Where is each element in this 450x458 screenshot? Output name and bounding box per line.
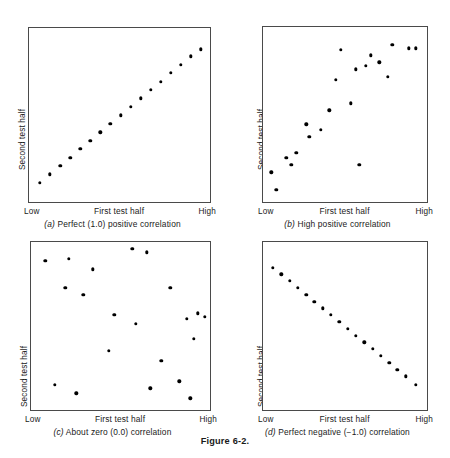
data-point [159, 80, 162, 83]
data-point [192, 337, 195, 340]
data-point [363, 341, 366, 344]
panel-d-x-label: First test half [319, 414, 369, 424]
data-point [64, 286, 67, 289]
data-point [67, 257, 70, 260]
data-point [290, 163, 293, 166]
data-point [131, 247, 134, 250]
panel-a-y-axis-label: Second test half [18, 109, 27, 170]
panel-c: Second test half Low First test half Hig… [0, 235, 225, 458]
data-point [364, 64, 367, 67]
data-point [149, 88, 152, 91]
data-point [288, 279, 291, 282]
data-point [369, 54, 372, 57]
panel-d: Second test half Low First test half Hig… [225, 235, 450, 458]
panel-a-x-label: First test half [94, 206, 144, 216]
data-point [199, 47, 202, 50]
panel-c-x-axis: Low First test half High [25, 414, 217, 424]
panel-a: Second test half Low First test half Hig… [0, 0, 225, 235]
data-point [304, 123, 307, 126]
panel-c-x-low: Low [25, 415, 40, 424]
data-point [346, 327, 349, 330]
data-point [270, 170, 273, 173]
data-point [129, 105, 132, 108]
panel-c-plot-area [30, 241, 211, 411]
data-point [58, 164, 61, 167]
figure-caption: Figure 6-2. [0, 436, 450, 446]
data-point [149, 386, 152, 389]
data-point [203, 315, 206, 318]
data-point [119, 114, 122, 117]
data-point [134, 322, 137, 325]
panel-a-caption: (a) Perfect (1.0) positive correlation [0, 219, 225, 229]
data-point [391, 43, 394, 46]
panel-a-caption-text: Perfect (1.0) positive correlation [55, 219, 181, 229]
data-point [44, 259, 47, 262]
data-point [179, 63, 182, 66]
data-point [329, 313, 332, 316]
data-point [53, 383, 56, 386]
panel-a-x-high: High [199, 207, 216, 216]
panel-b-x-high: High [416, 207, 433, 216]
data-point [414, 47, 417, 50]
data-point [328, 108, 331, 111]
panel-b-letter: (b) [284, 219, 295, 229]
data-point [38, 181, 41, 184]
panel-d-x-low: Low [258, 415, 273, 424]
data-point [185, 317, 188, 320]
data-point [107, 349, 110, 352]
data-point [338, 320, 341, 323]
data-point [48, 173, 51, 176]
data-point [109, 122, 112, 125]
data-point [396, 368, 399, 371]
panel-d-x-axis: Low First test half High [258, 414, 433, 424]
figure-6-2: Second test half Low First test half Hig… [0, 0, 450, 458]
panel-b-x-low: Low [258, 207, 273, 216]
data-point [82, 293, 85, 296]
data-point [404, 375, 407, 378]
data-point [169, 286, 172, 289]
data-point [334, 78, 337, 81]
data-point [321, 307, 324, 310]
data-point [377, 61, 380, 64]
data-point [354, 334, 357, 337]
data-point [294, 151, 297, 154]
panel-b-plot-area [262, 26, 428, 203]
data-point [178, 380, 181, 383]
data-point [386, 75, 389, 78]
data-point [75, 392, 78, 395]
data-point [319, 128, 322, 131]
data-point [387, 361, 390, 364]
data-point [160, 359, 163, 362]
data-point [139, 97, 142, 100]
data-point [113, 313, 116, 316]
data-point [407, 47, 410, 50]
data-point [308, 135, 311, 138]
panel-a-x-low: Low [24, 207, 39, 216]
data-point [371, 347, 374, 350]
data-point [145, 250, 148, 253]
panel-d-x-high: High [416, 415, 433, 424]
data-point [68, 156, 71, 159]
data-point [313, 300, 316, 303]
panel-c-x-high: High [200, 415, 217, 424]
data-point [358, 163, 361, 166]
data-point [280, 273, 283, 276]
panel-b-x-label: First test half [319, 206, 369, 216]
data-point [339, 48, 342, 51]
panel-c-x-label: First test half [95, 414, 145, 424]
panel-c-y-axis-label: Second test half [20, 346, 29, 407]
panel-a-plot-area [28, 27, 211, 203]
panel-b-caption-text: High positive correlation [295, 219, 391, 229]
data-point [285, 156, 288, 159]
data-point [91, 267, 94, 270]
data-point [414, 383, 417, 386]
panel-d-plot-area [262, 241, 428, 411]
data-point [275, 188, 278, 191]
data-point [99, 130, 102, 133]
data-point [379, 354, 382, 357]
data-point [169, 71, 172, 74]
data-point [79, 147, 82, 150]
data-point [354, 68, 357, 71]
panel-a-x-axis: Low First test half High [24, 206, 216, 216]
panel-b-x-axis: Low First test half High [258, 206, 433, 216]
